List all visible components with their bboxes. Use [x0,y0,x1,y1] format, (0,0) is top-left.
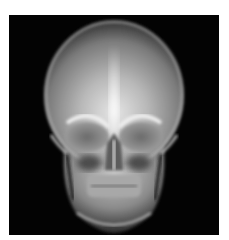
left-orbit [65,122,109,152]
xray-image-frame [9,15,219,235]
midline-sagittal-highlight [109,45,119,145]
right-orbit [119,122,163,152]
skull-xray [9,15,219,235]
